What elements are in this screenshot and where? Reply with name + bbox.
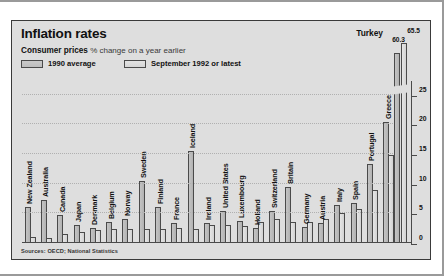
gridline <box>22 94 397 95</box>
bar-group: Switzerland <box>266 83 282 243</box>
category-label: Denmark <box>90 195 99 225</box>
legend-item-1992: September 1992 or latest <box>124 59 241 68</box>
bar-1992 <box>290 222 296 243</box>
screenshot-root: Inflation rates Consumer prices % change… <box>0 0 444 276</box>
bar-group: Finland <box>152 83 168 243</box>
category-label: Switzerland <box>270 169 279 208</box>
bar-1990 <box>41 200 47 243</box>
bar-group: Luxembourg <box>234 83 250 243</box>
bar-1992 <box>30 237 36 243</box>
gridline <box>22 183 397 184</box>
bar-1992 <box>242 226 248 243</box>
chart-panel: Inflation rates Consumer prices % change… <box>11 20 431 260</box>
bar-group: Norway <box>120 83 136 243</box>
category-label: Britain <box>286 162 295 184</box>
bar-1992 <box>258 222 264 243</box>
category-label: United States <box>221 163 230 208</box>
y-tick <box>411 155 417 156</box>
y-tick-label: 25 <box>419 86 427 93</box>
bar-1992 <box>176 228 182 243</box>
category-label: Ireland <box>204 198 213 221</box>
bar-groups: New ZealandAustraliaCanadaJapanDenmarkBe… <box>22 83 397 243</box>
category-label: Italy <box>335 188 344 202</box>
bar-group: Germany <box>299 83 315 243</box>
bar-group: United States <box>218 83 234 243</box>
y-tick <box>411 96 417 97</box>
bar-1992 <box>62 234 68 243</box>
bar-1992 <box>127 229 133 243</box>
legend-swatch-1992-icon <box>124 60 146 68</box>
y-tick <box>411 214 417 215</box>
bar-group: France <box>169 83 185 243</box>
bar-group: Spain <box>348 83 364 243</box>
gridline <box>22 123 397 124</box>
bar-group: Austria <box>315 83 331 243</box>
legend-item-1990: 1990 average <box>21 59 96 68</box>
bar-1992 <box>225 225 231 243</box>
category-label: Sweden <box>139 152 148 179</box>
bar-1992 <box>209 225 215 243</box>
legend-label-1990: 1990 average <box>48 59 96 68</box>
bar-group: Italy <box>332 83 348 243</box>
subtitle-rest: % change on a year earlier <box>90 46 186 55</box>
y-tick-label: 20 <box>419 115 427 122</box>
category-label: France <box>172 197 181 220</box>
bar-group: New Zealand <box>22 83 38 243</box>
category-label: Canada <box>58 186 67 211</box>
y-tick-label: 0 <box>419 234 423 241</box>
category-label: Belgium <box>107 192 116 220</box>
category-label: Austria <box>318 196 327 220</box>
bar-1992 <box>193 229 199 243</box>
turkey-bar-1992 <box>401 43 407 243</box>
subtitle-bold: Consumer prices <box>21 46 88 55</box>
y-tick-label: 10 <box>419 175 427 182</box>
bar-group: Australia <box>38 83 54 243</box>
category-label: Iceland <box>188 124 197 148</box>
bar-1992 <box>46 238 52 243</box>
bar-1992 <box>111 229 117 243</box>
bar-1992 <box>372 190 378 243</box>
bar-group: Japan <box>71 83 87 243</box>
gridline <box>22 212 397 213</box>
y-tick-label: 15 <box>419 145 427 152</box>
bar-group: Denmark <box>87 83 103 243</box>
y-tick <box>411 244 417 245</box>
chart-subtitle: Consumer prices % change on a year earli… <box>21 46 186 55</box>
bar-group: Sweden <box>136 83 152 243</box>
bar-group: Portugal <box>364 83 380 243</box>
y-tick <box>411 185 417 186</box>
plot-area: New ZealandAustraliaCanadaJapanDenmarkBe… <box>22 83 397 243</box>
bar-group: Holland <box>250 83 266 243</box>
legend-label-1992: September 1992 or latest <box>151 59 241 68</box>
bar-1992 <box>274 219 280 243</box>
bar-1992 <box>307 222 313 243</box>
turkey-bar-1990 <box>394 53 400 243</box>
turkey-country-label: Turkey <box>356 28 383 38</box>
category-label: Portugal <box>367 132 376 160</box>
y-axis: 0510152025 <box>411 77 441 249</box>
bar-group: Ireland <box>201 83 217 243</box>
category-label: Spain <box>351 181 360 200</box>
bar-group: Belgium <box>103 83 119 243</box>
y-tick <box>411 125 417 126</box>
y-tick-label: 5 <box>419 204 423 211</box>
chart-title: Inflation rates <box>21 26 107 41</box>
bar-1992 <box>339 213 345 243</box>
gridline <box>22 153 397 154</box>
bar-1992 <box>79 232 85 243</box>
bar-group: Iceland <box>185 83 201 243</box>
category-label: Germany <box>302 194 311 224</box>
bar-1992 <box>144 229 150 243</box>
y-axis-line <box>411 81 412 245</box>
bar-1992 <box>356 209 362 243</box>
bar-1992 <box>95 230 101 243</box>
bar-1992 <box>160 229 166 243</box>
source-note: Sources: OECD; National Statistics <box>21 248 118 254</box>
bar-group: Canada <box>55 83 71 243</box>
divider-top <box>0 0 444 2</box>
bar-group: Britain <box>283 83 299 243</box>
bar-1992 <box>323 219 329 243</box>
turkey-value-1992: 65.5 <box>407 27 420 34</box>
legend-swatch-1990-icon <box>21 60 43 68</box>
